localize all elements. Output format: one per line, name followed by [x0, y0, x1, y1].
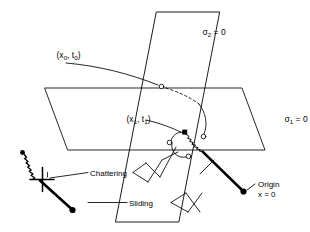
label-sliding: Sliding [129, 199, 153, 208]
svg-text:σ2 = 0: σ2 = 0 [186, 27, 237, 38]
label-switch-point: (x1, t1) [110, 114, 162, 125]
origin-point-marker [240, 188, 246, 194]
sliding-mode-diagram: σ2 = 0 σ1 = 0 (x0, t0) (x1, t1) Chatteri… [0, 0, 310, 232]
label-chattering: Chattering [90, 169, 127, 178]
label-sigma1: σ1 = 0 [268, 114, 310, 125]
svg-text:(x0, t0): (x0, t0) [40, 50, 92, 61]
svg-text:(x1, t1): (x1, t1) [110, 114, 162, 125]
label-initial-point: (x0, t0) [40, 50, 92, 61]
sigma2-equals: = 0 [211, 27, 226, 37]
switch-close: ) [148, 114, 151, 124]
initial-close: ) [78, 50, 81, 60]
origin-line2: x = 0 [258, 190, 276, 199]
chatter-marker-lower [186, 154, 191, 159]
chatter-marker-left [167, 140, 172, 145]
crossing-marker-1 [159, 84, 164, 89]
crossing-marker-2 [201, 134, 206, 139]
inset-end-marker [69, 207, 75, 213]
svg-text:σ1 = 0: σ1 = 0 [268, 114, 310, 125]
label-sigma2: σ2 = 0 [186, 27, 237, 38]
origin-line1: Origin [258, 180, 279, 189]
sigma1-equals: = 0 [293, 114, 308, 124]
diagram-canvas: σ2 = 0 σ1 = 0 (x0, t0) (x1, t1) Chatteri… [0, 0, 310, 232]
